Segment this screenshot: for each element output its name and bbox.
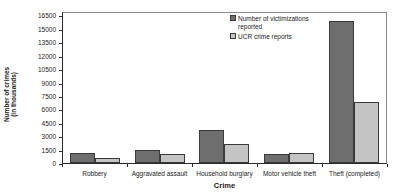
- y-axis-tick-label: 1500: [42, 147, 56, 154]
- y-axis-tick-label: 4500: [42, 120, 56, 127]
- bar-chart-figure: Number of crimes (in thousands) 01500300…: [0, 0, 397, 194]
- x-axis-tick-mark: [127, 164, 128, 167]
- x-axis-category: Household burglary: [192, 164, 257, 182]
- x-axis-tick-label: Robbery: [62, 170, 127, 178]
- y-axis-tick: 10500: [0, 70, 62, 71]
- y-axis-tick-label: 13500: [38, 39, 56, 46]
- x-axis-title: Crime: [62, 181, 387, 190]
- y-axis-tick: 9000: [0, 84, 62, 85]
- bar: [95, 158, 120, 163]
- x-axis-tick-mark: [257, 164, 258, 167]
- x-axis-tick-label: Household burglary: [192, 170, 257, 178]
- y-axis-tick-label: 15000: [38, 26, 56, 33]
- legend-label: UCR crime reports: [238, 33, 292, 41]
- y-axis-title-line1: Number of crimes: [3, 67, 10, 122]
- y-axis-tick: 6000: [0, 110, 62, 111]
- x-axis-tick-label: Theft (completed): [322, 170, 387, 178]
- x-axis-tick-mark: [192, 164, 193, 167]
- y-axis-tick-label: 16500: [38, 12, 56, 19]
- x-axis-category: Robbery: [62, 164, 127, 182]
- legend-item: UCR crime reports: [230, 33, 335, 41]
- y-axis-tick: 1500: [0, 151, 62, 152]
- y-axis-tick: 13500: [0, 43, 62, 44]
- y-axis-tick: 15000: [0, 30, 62, 31]
- legend-swatch-icon: [230, 33, 236, 39]
- chart-legend: Number of victimizations reportedUCR cri…: [230, 15, 335, 44]
- x-axis-tick-mark: [322, 164, 323, 167]
- legend-swatch-icon: [230, 15, 236, 21]
- y-axis-tick: 7500: [0, 97, 62, 98]
- bar: [70, 153, 95, 163]
- x-axis-labels: RobberyAggravated assaultHousehold burgl…: [62, 164, 387, 182]
- x-axis-end-tick: [387, 164, 388, 167]
- bar: [289, 153, 314, 163]
- y-axis-tick-label: 3000: [42, 133, 56, 140]
- y-axis-tick-label: 9000: [42, 80, 56, 87]
- y-axis-tick-label: 10500: [38, 66, 56, 73]
- legend-item: Number of victimizations reported: [230, 15, 335, 30]
- y-axis-tick-label: 12000: [38, 53, 56, 60]
- plot-area: [62, 12, 387, 164]
- bar: [354, 102, 379, 163]
- x-axis-tick-label: Aggravated assault: [127, 170, 192, 178]
- bar: [264, 154, 289, 163]
- y-axis-tick-label: 0: [52, 160, 56, 167]
- y-axis-tick-label: 7500: [42, 93, 56, 100]
- bar: [135, 150, 160, 163]
- x-axis-tick-mark: [62, 164, 63, 167]
- x-axis-category: Motor vehicle theft: [257, 164, 322, 182]
- y-axis-tick: 3000: [0, 137, 62, 138]
- bar: [160, 154, 185, 163]
- bar: [199, 130, 224, 163]
- x-axis-category: Theft (completed): [322, 164, 387, 182]
- bars-container: [63, 13, 386, 163]
- x-axis-category: Aggravated assault: [127, 164, 192, 182]
- bar-group: [128, 13, 193, 163]
- x-axis-tick-label: Motor vehicle theft: [257, 170, 322, 178]
- bar: [224, 144, 249, 163]
- y-axis-tick: 12000: [0, 57, 62, 58]
- y-axis-tick: 16500: [0, 16, 62, 17]
- y-axis-tick-label: 6000: [42, 106, 56, 113]
- legend-label: Number of victimizations reported: [238, 15, 332, 30]
- bar-group: [63, 13, 128, 163]
- y-axis-tick: 0: [0, 164, 62, 165]
- y-axis-tick: 4500: [0, 124, 62, 125]
